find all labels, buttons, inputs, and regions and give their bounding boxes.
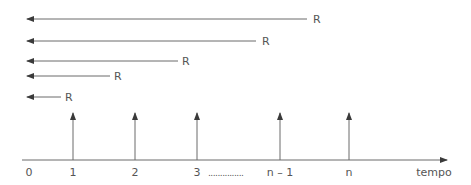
period-labels: 0123n – 1n [26, 166, 353, 179]
discount-arrow: R [27, 13, 321, 26]
period-label: n – 1 [267, 166, 293, 179]
period-label: 2 [132, 166, 139, 179]
period-label: 1 [70, 166, 77, 179]
cash-flow-diagram: RRRRR 0123n – 1n ............... tempo [0, 0, 471, 185]
arrow-label-r: R [313, 13, 321, 26]
discount-arrows: RRRRR [27, 13, 321, 104]
arrow-label-r: R [114, 70, 122, 83]
period-label: n [346, 166, 353, 179]
axis-label-tempo: tempo [416, 166, 452, 179]
ellipsis-dots: ............... [208, 168, 243, 178]
discount-arrow: R [27, 91, 73, 104]
arrow-label-r: R [262, 35, 270, 48]
arrow-label-r: R [182, 55, 190, 68]
discount-arrow: R [27, 55, 190, 68]
discount-arrow: R [27, 35, 270, 48]
payment-arrows [73, 113, 349, 160]
discount-arrow: R [27, 70, 122, 83]
period-label: 0 [26, 166, 33, 179]
arrow-label-r: R [65, 91, 73, 104]
period-label: 3 [194, 166, 201, 179]
